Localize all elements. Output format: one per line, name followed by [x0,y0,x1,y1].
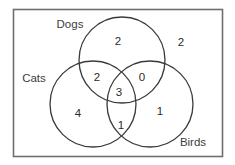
region-count-outside: 2 [178,36,184,48]
region-count-cats-birds: 1 [118,119,124,131]
region-count-cats-dogs: 2 [94,71,100,83]
venn-diagram-figure: Dogs Cats Birds 2 4 1 2 0 1 3 2 [0,0,235,165]
region-count-dogs-only: 2 [115,35,121,47]
venn-diagram-canvas: Dogs Cats Birds 2 4 1 2 0 1 3 2 [0,0,235,165]
region-count-dogs-birds: 0 [139,71,145,83]
region-count-birds-only: 1 [157,105,163,117]
set-label-birds: Birds [180,136,206,148]
region-count-cats-only: 4 [75,107,82,119]
region-count-all-three: 3 [116,86,122,98]
set-label-dogs: Dogs [57,18,84,30]
set-circle-birds [107,61,193,147]
set-label-cats: Cats [22,72,46,84]
